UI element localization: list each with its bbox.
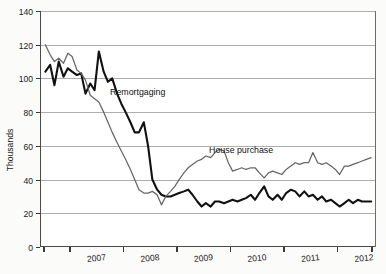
y-tick-label: 60 [23, 142, 33, 152]
x-tick-labels: 200720082009201020112012 [86, 252, 374, 264]
x-tick-label: 2009 [193, 252, 213, 264]
y-axis-title: Thousands [5, 129, 15, 172]
x-tick-label: 2012 [354, 252, 374, 264]
x-tick-label: 2010 [247, 252, 267, 264]
x-tick-label: 2007 [86, 252, 106, 264]
y-tick-label: 80 [23, 108, 33, 118]
y-tick-label: 20 [23, 209, 33, 219]
chart-container: 020406080100120140 200720082009201020112… [0, 0, 386, 274]
y-tick-label: 100 [19, 74, 34, 84]
y-tick-label: 40 [23, 176, 33, 186]
plot-background [40, 11, 376, 247]
x-tick-label: 2011 [301, 252, 321, 264]
series-annotation-house-purchase: House purchase [209, 145, 273, 155]
y-tick-label: 140 [19, 7, 34, 17]
x-tick-label: 2008 [140, 252, 160, 264]
y-tick-label: 0 [28, 243, 33, 253]
x-tick-marks [70, 247, 338, 252]
line-chart: 020406080100120140 200720082009201020112… [0, 0, 386, 274]
series-annotation-remortgaging: Remortgaging [110, 87, 165, 97]
y-tick-label: 120 [19, 41, 34, 51]
y-tick-marks [36, 12, 40, 248]
y-tick-labels: 020406080100120140 [19, 7, 34, 253]
